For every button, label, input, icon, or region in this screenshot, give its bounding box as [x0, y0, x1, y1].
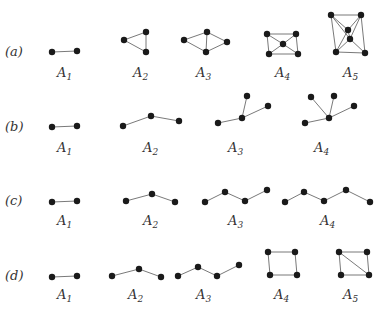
graph-vertex: [123, 198, 129, 204]
graph-label: A2: [132, 65, 148, 82]
graph-edge: [305, 118, 329, 123]
graph-label-subscript: 4: [322, 147, 329, 157]
graph-label-subscript: 5: [352, 294, 358, 304]
graph-edge: [242, 96, 247, 118]
graph-label: A5: [342, 287, 358, 304]
graph-label-subscript: 2: [136, 294, 143, 304]
graph-vertex: [358, 12, 364, 18]
row-label: (d): [5, 268, 23, 283]
graph-label-subscript: 1: [66, 220, 72, 230]
graph-vertex: [295, 51, 301, 57]
graph-vertex: [222, 189, 228, 195]
graph-label-name: A: [274, 65, 284, 80]
graph-label: A5: [342, 65, 358, 82]
graph-label-name: A: [195, 287, 205, 302]
graph-label: A2: [142, 140, 158, 157]
graph-label-subscript: 1: [66, 294, 72, 304]
graph-edge: [346, 190, 370, 202]
graph-vertex: [149, 191, 155, 197]
graph-edge: [124, 40, 146, 52]
graph-vertex: [158, 274, 164, 280]
graph-vertex: [333, 49, 339, 55]
graph-vertex: [364, 249, 370, 255]
graph-vertex: [143, 49, 149, 55]
graph-label: A4: [319, 213, 335, 230]
graph-label: A2: [142, 213, 158, 230]
graph-vertex: [362, 50, 368, 56]
graph-vertex: [293, 31, 299, 37]
graph-vertex: [351, 103, 357, 109]
graph-label-subscript: 1: [66, 147, 72, 157]
graph-edge: [126, 194, 152, 201]
row-label: (b): [5, 119, 23, 134]
graph-vertex: [204, 29, 210, 35]
graph-edge: [324, 190, 346, 201]
graph-a4: A4: [282, 187, 373, 230]
graph-label-name: A: [195, 65, 205, 80]
graph-edge: [367, 252, 369, 275]
graph-label: A2: [127, 287, 143, 304]
graph-edge: [311, 97, 329, 118]
graph-vertex: [74, 123, 80, 129]
graph-edge: [207, 32, 227, 42]
graph-vertex: [109, 273, 115, 279]
graph-vertex: [121, 37, 127, 43]
graph-vertex: [181, 37, 187, 43]
graph-label-subscript: 5: [352, 72, 358, 82]
graph-label-name: A: [56, 140, 66, 155]
graph-vertex: [49, 274, 55, 280]
graph-vertex: [267, 272, 273, 278]
graph-vertex: [282, 199, 288, 205]
graph-vertex: [302, 120, 308, 126]
graph-vertex: [224, 39, 230, 45]
graph-label-name: A: [56, 65, 66, 80]
graph-label-name: A: [132, 65, 142, 80]
row-label: (a): [5, 44, 23, 59]
graph-label-subscript: 2: [151, 220, 158, 230]
graph-vertex: [326, 115, 332, 121]
graph-a2: A2: [121, 29, 149, 82]
graph-vertex: [321, 198, 327, 204]
graph-vertex: [215, 120, 221, 126]
graph-edge: [329, 106, 354, 118]
graph-edge: [112, 269, 139, 276]
graph-vertex: [236, 262, 242, 268]
graph-vertex: [345, 27, 351, 33]
graph-vertex: [49, 49, 55, 55]
graph-a2: A2: [120, 113, 182, 157]
graph-edge: [245, 190, 267, 201]
graph-edge: [361, 15, 365, 53]
graph-label-name: A: [227, 140, 237, 155]
graph-edge: [123, 116, 151, 126]
graph-label: A1: [56, 140, 72, 157]
graph-label: A1: [56, 213, 72, 230]
graph-a3: A3: [181, 29, 230, 82]
graph-edge: [285, 192, 304, 202]
graph-vertex: [347, 36, 353, 42]
graph-label-name: A: [56, 287, 66, 302]
graph-a3: A3: [175, 262, 242, 304]
graph-edge: [52, 126, 77, 127]
graph-edge: [218, 118, 242, 123]
graph-edge: [184, 32, 207, 40]
graph-vertex: [242, 198, 248, 204]
graph-vertex: [202, 199, 208, 205]
graph-label-name: A: [313, 140, 323, 155]
graph-edge: [217, 265, 239, 276]
graph-vertex: [74, 198, 80, 204]
graph-vertex: [143, 29, 149, 35]
graph-vertex: [328, 12, 334, 18]
graph-a1: A1: [49, 273, 80, 304]
graph-label-name: A: [342, 65, 352, 80]
graph-edge: [184, 40, 206, 52]
graph-label-subscript: 4: [328, 220, 335, 230]
graph-edge: [139, 269, 161, 277]
graph-vertex: [49, 199, 55, 205]
graph-vertex: [308, 94, 314, 100]
graph-a5: A5: [336, 249, 372, 304]
graph-edge: [124, 32, 146, 40]
graph-vertex: [148, 113, 154, 119]
graph-vertex: [74, 48, 80, 54]
graph-a2: A2: [109, 266, 164, 304]
graph-a3: A3: [202, 187, 270, 230]
